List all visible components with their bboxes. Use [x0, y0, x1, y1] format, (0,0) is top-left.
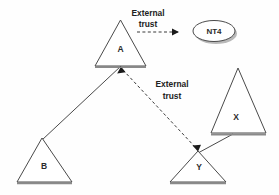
node-triangle-y[interactable]: Y	[170, 151, 226, 183]
triangle-b-shape	[17, 138, 72, 182]
link-line-x-y	[198, 134, 233, 153]
trust-diagram-svg: A B X Y NT4 External trust	[0, 0, 279, 195]
trust-diagram-canvas: A B X Y NT4 External trust	[0, 0, 279, 195]
caption-top-line2: trust	[139, 19, 158, 29]
arrowhead-toward-y	[192, 145, 201, 152]
caption-mid-line2: trust	[163, 91, 182, 101]
node-oval-nt4[interactable]: NT4	[193, 21, 237, 45]
triangle-b-label: B	[41, 161, 47, 171]
node-triangle-b[interactable]: B	[17, 138, 72, 183]
caption-mid-line1: External	[155, 79, 188, 89]
connection-a-to-nt4	[137, 29, 179, 36]
caption-external-trust-middle: External trust	[155, 79, 188, 101]
triangle-a-label: A	[117, 44, 123, 54]
connection-b-to-a	[42, 66, 121, 140]
triangle-y-label: Y	[196, 162, 202, 172]
arrowhead-toward-nt4	[172, 29, 179, 36]
connection-x-to-y	[198, 134, 233, 153]
node-triangle-x[interactable]: X	[211, 68, 266, 135]
oval-nt4-label: NT4	[206, 27, 222, 36]
triangle-x-label: X	[233, 112, 239, 122]
link-line-b-a	[42, 66, 121, 140]
triangle-x-shape	[211, 68, 266, 133]
caption-external-trust-top: External trust	[131, 8, 164, 29]
caption-top-line1: External	[131, 8, 164, 18]
